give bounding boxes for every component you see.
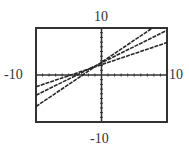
- xmin-label: -10: [4, 68, 23, 82]
- ymax-label: 10: [94, 10, 108, 24]
- xmax-label: 10: [169, 68, 183, 82]
- line-steep: [36, 28, 152, 106]
- ymin-label: -10: [90, 132, 109, 146]
